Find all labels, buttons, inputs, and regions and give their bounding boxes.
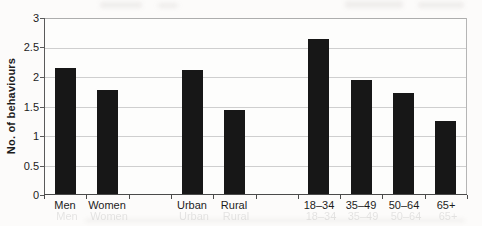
x-tick bbox=[425, 195, 426, 199]
x-tick bbox=[256, 195, 257, 199]
bar-Women bbox=[97, 90, 118, 194]
scan-ghost-label: 50–64 bbox=[391, 211, 422, 222]
x-tick bbox=[86, 195, 87, 199]
plot-border-right bbox=[466, 18, 467, 195]
y-tick-label: 0.5 bbox=[0, 161, 39, 172]
scan-ghost-label: 18–34 bbox=[306, 211, 337, 222]
y-tick-label: 2.5 bbox=[0, 42, 39, 53]
x-tick bbox=[382, 195, 383, 199]
y-tick-label: 0 bbox=[0, 190, 39, 201]
plot-area bbox=[44, 18, 467, 195]
scan-ghost-label: Urban bbox=[179, 211, 209, 222]
scan-ghost-label: Men bbox=[56, 211, 77, 222]
y-tick bbox=[40, 166, 44, 167]
y-tick bbox=[40, 47, 44, 48]
scan-smudge bbox=[345, 1, 403, 8]
bar-18–34 bbox=[308, 39, 329, 194]
y-tick bbox=[40, 136, 44, 137]
x-tick bbox=[129, 195, 130, 199]
scan-smudge bbox=[418, 2, 464, 8]
bar-50–64 bbox=[393, 93, 414, 194]
bar-65+ bbox=[435, 121, 456, 194]
x-tick bbox=[340, 195, 341, 199]
y-tick-label: 1.5 bbox=[0, 102, 39, 113]
gridline bbox=[45, 77, 466, 78]
y-tick bbox=[40, 18, 44, 19]
x-tick bbox=[298, 195, 299, 199]
scan-smudge bbox=[158, 3, 178, 8]
x-tick bbox=[44, 195, 45, 199]
scan-ghost-label: Rural bbox=[223, 211, 249, 222]
bar-Rural bbox=[224, 110, 245, 194]
x-tick bbox=[467, 195, 468, 199]
y-tick-label: 1 bbox=[0, 131, 39, 142]
scan-ghost-label: 65+ bbox=[439, 211, 458, 222]
x-tick bbox=[213, 195, 214, 199]
y-tick bbox=[40, 107, 44, 108]
scan-ghost-label: Women bbox=[90, 211, 128, 222]
bar-chart-figure: No. of behaviours 00.511.522.53MenMenWom… bbox=[0, 0, 482, 226]
y-tick-label: 2 bbox=[0, 72, 39, 83]
bar-35–49 bbox=[351, 80, 372, 194]
y-tick-label: 3 bbox=[0, 13, 39, 24]
bar-Men bbox=[55, 68, 76, 194]
y-tick bbox=[40, 77, 44, 78]
x-tick bbox=[171, 195, 172, 199]
plot-border-top bbox=[44, 18, 467, 19]
scan-smudge bbox=[100, 2, 142, 8]
scan-ghost-label: 35–49 bbox=[348, 211, 379, 222]
gridline bbox=[45, 48, 466, 49]
bar-Urban bbox=[182, 70, 203, 194]
